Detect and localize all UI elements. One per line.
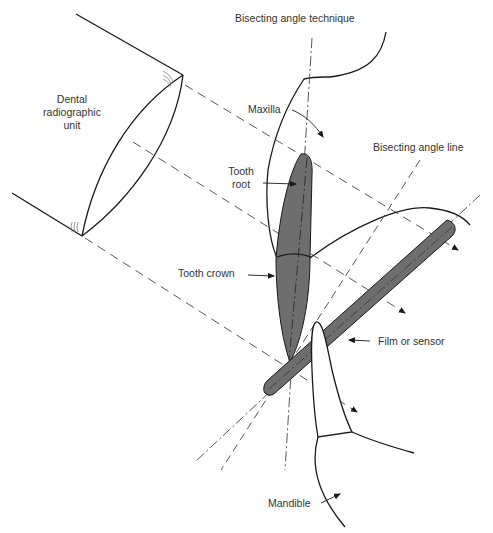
label-unit-line-3: unit	[37, 119, 107, 132]
label-maxilla: Maxilla	[248, 103, 281, 116]
label-unit-line-1: Dental	[37, 93, 107, 106]
mandible-outline	[311, 322, 414, 527]
label-dental-radiographic-unit: Dental radiographic unit	[37, 93, 107, 132]
label-tooth-root-line-1: Tooth	[224, 165, 258, 178]
bisecting-angle-diagram	[0, 0, 493, 533]
label-tooth-crown: Tooth crown	[178, 267, 235, 280]
label-bisecting-angle-line: Bisecting angle line	[373, 141, 463, 154]
tooth	[276, 154, 312, 362]
label-film-or-sensor: Film or sensor	[378, 335, 445, 348]
label-mandible: Mandible	[268, 497, 311, 510]
label-tooth-root: Tooth root	[224, 165, 258, 191]
label-unit-line-2: radiographic	[37, 106, 107, 119]
xray-beams	[85, 85, 458, 412]
diagram-title: Bisecting angle technique	[235, 12, 355, 25]
label-tooth-root-line-2: root	[224, 178, 258, 191]
